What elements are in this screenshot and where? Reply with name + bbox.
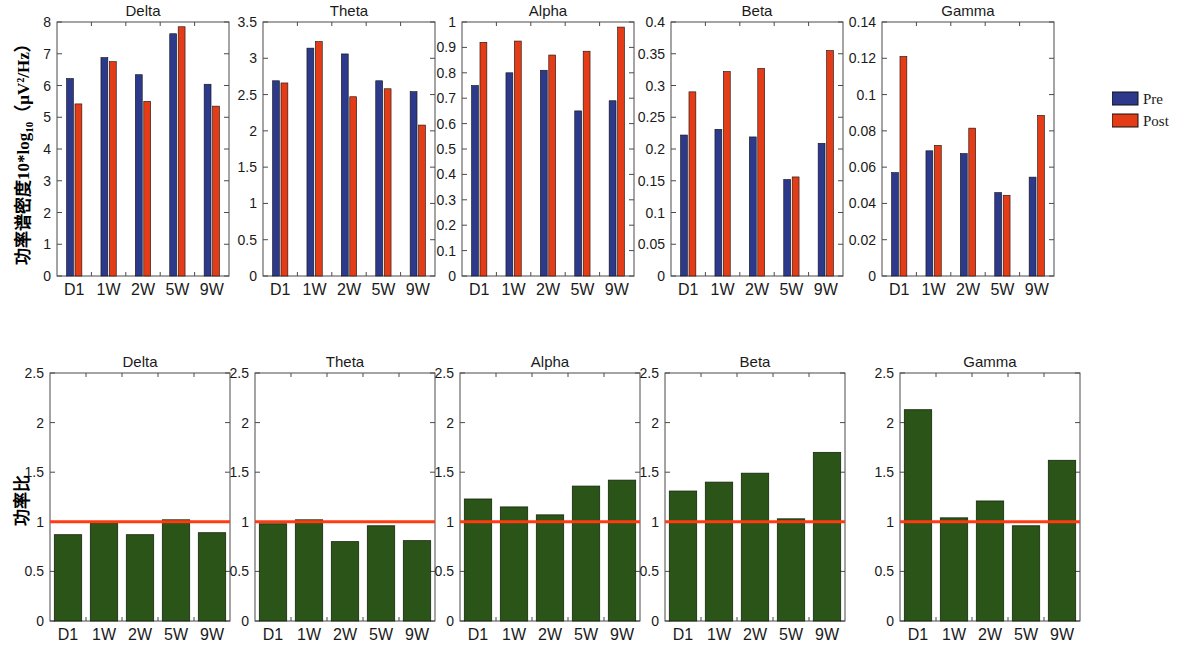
chart-panel-psd-alpha: Alpha00.10.20.30.40.50.60.70.80.91D11W2W…	[418, 2, 638, 306]
y-tick-label: 6	[43, 78, 51, 94]
x-tick-label: D1	[270, 281, 291, 298]
bar	[90, 523, 117, 621]
bar-pre	[681, 135, 688, 276]
y-tick-label: 0.14	[849, 14, 876, 30]
y-tick-label: 1.5	[230, 464, 250, 480]
y-tick-label: 0.4	[646, 14, 666, 30]
x-tick-label: 2W	[333, 626, 358, 643]
x-tick-label: 9W	[1025, 281, 1050, 298]
x-tick-label: 5W	[371, 281, 396, 298]
x-tick-label: D1	[58, 626, 79, 643]
bar	[126, 535, 153, 621]
x-tick-label: 5W	[570, 281, 595, 298]
y-tick-label: 2	[446, 415, 454, 431]
x-tick-label: 5W	[164, 626, 189, 643]
y-tick-label: 0.5	[437, 141, 457, 157]
x-tick-label: 2W	[956, 281, 981, 298]
x-tick-label: 2W	[978, 626, 1003, 643]
y-tick-label: 0	[249, 268, 257, 284]
bar	[572, 486, 599, 621]
bar-pre	[818, 143, 825, 276]
bar-pre	[472, 86, 479, 277]
bar-post	[934, 145, 941, 276]
bar-post	[178, 27, 185, 276]
x-tick-label: 1W	[922, 281, 947, 298]
y-tick-label: 0.08	[849, 123, 876, 139]
y-tick-label: 0.25	[638, 109, 665, 125]
y-tick-label: 0.5	[875, 563, 895, 579]
x-tick-label: 5W	[574, 626, 599, 643]
bar	[741, 473, 768, 621]
bar-pre	[170, 34, 177, 276]
y-tick-label: 3.5	[238, 14, 258, 30]
y-tick-label: 0.04	[849, 195, 876, 211]
bar	[669, 491, 696, 621]
x-tick-label: 1W	[303, 281, 328, 298]
panel-title: Gamma	[963, 353, 1017, 370]
bar	[259, 524, 286, 621]
y-tick-label: 2	[43, 205, 51, 221]
chart-panel-ratio-beta: Beta00.511.522.5D11W2W5W9W	[621, 353, 849, 651]
chart-panel-ratio-delta: Delta00.511.522.5D11W2W5W9W	[6, 353, 234, 651]
chart-panel-ratio-alpha: Alpha00.511.522.5D11W2W5W9W	[416, 353, 644, 651]
y-tick-label: 1	[446, 514, 454, 530]
y-tick-label: 1	[249, 195, 257, 211]
x-tick-label: 5W	[779, 281, 804, 298]
y-tick-label: 0.12	[849, 50, 876, 66]
x-tick-label: 1W	[942, 626, 967, 643]
bar-pre	[307, 48, 314, 276]
y-tick-label: 3	[43, 173, 51, 189]
y-tick-label: 2	[886, 415, 894, 431]
plot-frame	[671, 22, 843, 276]
y-tick-label: 2.5	[238, 87, 258, 103]
bar-post	[689, 92, 696, 276]
x-tick-label: 2W	[536, 281, 561, 298]
panel-title: Theta	[330, 2, 369, 19]
bar-pre	[715, 129, 722, 276]
y-tick-label: 0.6	[437, 116, 457, 132]
x-tick-label: D1	[263, 626, 284, 643]
panel-title: Alpha	[529, 2, 568, 19]
x-tick-label: 5W	[779, 626, 804, 643]
bar-pre	[575, 111, 582, 276]
y-tick-label: 2	[36, 415, 44, 431]
y-tick-label: 0.5	[238, 232, 258, 248]
legend: PrePost	[1112, 88, 1184, 144]
x-tick-label: 1W	[502, 281, 527, 298]
bar-post	[723, 72, 730, 276]
bar-pre	[341, 54, 348, 276]
y-tick-label: 0	[241, 613, 249, 629]
bar-post	[969, 128, 976, 276]
x-tick-label: 9W	[605, 281, 630, 298]
x-tick-label: D1	[468, 626, 489, 643]
y-tick-label: 0.35	[638, 46, 665, 62]
x-tick-label: 2W	[128, 626, 153, 643]
bar-pre	[410, 92, 417, 276]
y-tick-label: 0	[448, 268, 456, 284]
y-tick-label: 1.5	[875, 464, 895, 480]
x-tick-label: 5W	[369, 626, 394, 643]
y-tick-label: 0	[651, 613, 659, 629]
y-tick-label: 0.8	[437, 65, 457, 81]
x-tick-label: 2W	[337, 281, 362, 298]
bar-pre	[204, 84, 211, 276]
bar-post	[758, 68, 765, 276]
panel-title: Delta	[125, 2, 161, 19]
y-tick-label: 2	[241, 415, 249, 431]
ratio-y-axis-label: 功率比	[8, 475, 33, 526]
y-tick-label: 0.3	[437, 192, 457, 208]
bar-post	[350, 97, 357, 276]
y-tick-label: 5	[43, 109, 51, 125]
x-tick-label: 5W	[1014, 626, 1039, 643]
x-tick-label: 1W	[297, 626, 322, 643]
y-tick-label: 4	[43, 141, 51, 157]
x-tick-label: D1	[469, 281, 490, 298]
y-tick-label: 0.1	[857, 87, 877, 103]
y-tick-label: 0.15	[638, 173, 665, 189]
figure-canvas: Delta012345678D11W2W5W9WTheta00.511.522.…	[0, 0, 1184, 651]
x-tick-label: 2W	[745, 281, 770, 298]
y-tick-label: 0.7	[437, 90, 457, 106]
chart-panel-psd-delta: Delta012345678D11W2W5W9W	[13, 2, 233, 306]
bar	[536, 515, 563, 621]
y-tick-label: 0.5	[25, 563, 45, 579]
